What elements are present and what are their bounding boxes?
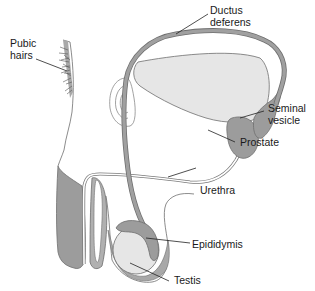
label-testis: Testis bbox=[174, 274, 201, 286]
label-prostate: Prostate bbox=[240, 136, 279, 148]
leader-urethra bbox=[168, 168, 196, 177]
label-epididymis: Epididymis bbox=[192, 238, 243, 250]
label-urethra: Urethra bbox=[200, 184, 235, 196]
label-ductus-deferens: Ductus deferens bbox=[210, 4, 251, 28]
label-pubic-hairs: Pubic hairs bbox=[10, 37, 36, 61]
penis bbox=[57, 166, 107, 269]
label-seminal-vesicle: Seminal vesicle bbox=[268, 102, 306, 126]
bladder bbox=[134, 53, 270, 122]
